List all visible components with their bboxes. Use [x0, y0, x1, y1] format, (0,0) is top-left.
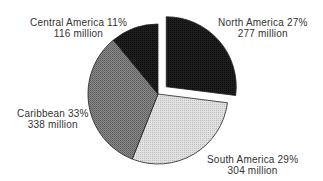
label-north-america-percent: North America 27%: [218, 17, 308, 28]
label-south-america-value: 304 million: [207, 165, 298, 176]
label-north-america: North America 27% 277 million: [218, 17, 308, 39]
label-caribbean-value: 338 million: [17, 119, 89, 130]
label-south-america: South America 29% 304 million: [207, 154, 298, 176]
label-caribbean: Caribbean 33% 338 million: [17, 108, 89, 130]
label-central-america-percent: Central America 11%: [30, 17, 127, 28]
label-central-america-value: 116 million: [30, 28, 127, 39]
label-south-america-percent: South America 29%: [207, 154, 298, 165]
label-central-america: Central America 11% 116 million: [30, 17, 127, 39]
label-north-america-value: 277 million: [218, 28, 308, 39]
label-caribbean-percent: Caribbean 33%: [17, 108, 89, 119]
